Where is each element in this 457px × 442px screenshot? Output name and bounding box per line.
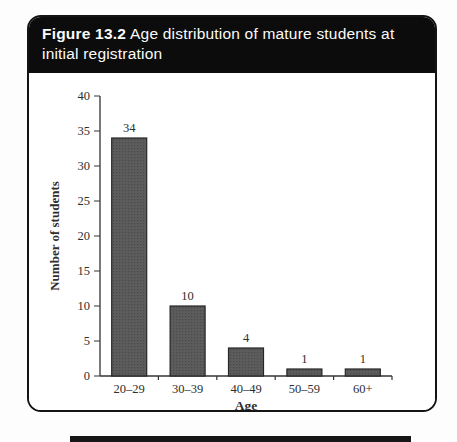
x-category-label: 40–49	[230, 382, 261, 396]
y-tick-label: 25	[78, 194, 91, 208]
y-tick-label: 5	[84, 334, 90, 348]
x-category-label: 20–29	[114, 382, 145, 396]
y-tick-label: 10	[78, 299, 91, 313]
x-category-label: 30–39	[172, 382, 203, 396]
bar-value-label: 34	[123, 121, 136, 135]
bar-value-label: 4	[243, 331, 250, 345]
bar-value-label: 1	[301, 352, 307, 366]
x-category-label: 60+	[353, 382, 373, 396]
bottom-rule	[70, 436, 411, 442]
bar-30–39	[170, 306, 205, 376]
x-axis-title: Age	[235, 398, 258, 412]
bar-40–49	[229, 348, 264, 376]
y-tick-label: 40	[78, 89, 91, 103]
figure-label: Figure 13.2	[42, 25, 126, 42]
figure-card: Figure 13.2Age distribution of mature st…	[27, 15, 437, 412]
y-tick-label: 30	[78, 159, 91, 173]
figure-header: Figure 13.2Age distribution of mature st…	[29, 17, 435, 73]
chart-area: 05101520253035403420–291030–39440–49150–…	[29, 73, 435, 412]
x-category-label: 50–59	[289, 382, 320, 396]
y-tick-label: 15	[78, 264, 91, 278]
y-axis-title: Number of students	[47, 181, 62, 291]
bar-value-label: 10	[181, 289, 194, 303]
age-distribution-bar-chart: 05101520253035403420–291030–39440–49150–…	[29, 73, 435, 412]
bar-50–59	[287, 369, 322, 376]
y-tick-label: 0	[84, 369, 90, 383]
bar-60+	[345, 369, 380, 376]
y-tick-label: 20	[78, 229, 91, 243]
y-tick-label: 35	[78, 124, 91, 138]
bar-value-label: 1	[360, 352, 366, 366]
bar-20–29	[112, 138, 147, 376]
